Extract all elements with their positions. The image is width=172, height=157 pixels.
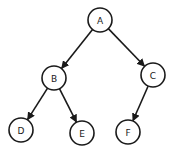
node-label: D (18, 126, 25, 136)
edge-b-d (28, 88, 48, 119)
node-label: F (125, 128, 130, 138)
node-label: B (51, 74, 57, 84)
node-e: E (70, 121, 94, 145)
tree-diagram: ABCDEF (0, 0, 172, 157)
edge-c-f (133, 86, 148, 121)
node-f: F (116, 120, 140, 144)
node-b: B (42, 66, 66, 90)
edge-b-e (59, 89, 76, 122)
node-a: A (88, 8, 112, 32)
node-label: A (97, 16, 104, 26)
node-d: D (9, 118, 33, 142)
edge-a-c (108, 29, 144, 66)
edge-a-b (62, 29, 93, 68)
node-label: E (79, 129, 85, 139)
node-c: C (141, 63, 165, 87)
node-label: C (150, 71, 156, 81)
nodes: ABCDEF (9, 8, 165, 145)
